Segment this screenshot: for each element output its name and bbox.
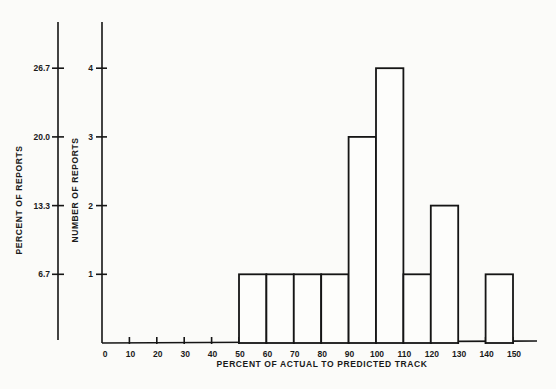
- histogram-bar: [321, 274, 348, 343]
- number-axis-title: NUMBER OF REPORTS: [70, 137, 80, 242]
- x-tick-label: 80: [317, 349, 327, 359]
- percent-tick-label: 26.7: [33, 63, 50, 73]
- x-tick-label: 0: [103, 349, 108, 359]
- x-axis-title: PERCENT OF ACTUAL TO PREDICTED TRACK: [217, 359, 428, 369]
- x-tick-label: 140: [480, 349, 494, 359]
- x-tick-label: 10: [126, 349, 136, 359]
- number-axis: 1234: [88, 22, 107, 343]
- x-tick-label: 120: [425, 349, 439, 359]
- histogram-bar: [486, 274, 513, 343]
- y-tick-label: 2: [88, 201, 93, 211]
- x-tick-label: 110: [398, 349, 412, 359]
- x-tick-label: 100: [370, 349, 384, 359]
- x-tick-label: 30: [180, 349, 190, 359]
- percent-axis: 6.713.320.026.7: [33, 22, 64, 340]
- histogram-bar: [266, 274, 293, 343]
- percent-tick-label: 6.7: [38, 269, 50, 279]
- histogram-bar: [431, 206, 458, 343]
- x-tick-label: 50: [235, 349, 245, 359]
- histogram-bar: [403, 274, 430, 343]
- y-tick-label: 1: [88, 269, 93, 279]
- histogram-chart: 6.713.320.026.7 1234 0102030405060708090…: [0, 0, 556, 389]
- x-tick-label: 150: [507, 349, 521, 359]
- x-tick-label: 40: [208, 349, 218, 359]
- histogram-bar: [294, 274, 321, 343]
- percent-axis-title: PERCENT OF REPORTS: [14, 145, 24, 254]
- percent-tick-label: 13.3: [33, 201, 50, 211]
- x-tick-label: 20: [153, 349, 163, 359]
- y-tick-label: 4: [88, 63, 93, 73]
- x-tick-label: 70: [290, 349, 300, 359]
- y-tick-label: 3: [88, 132, 93, 142]
- histogram-bar: [239, 274, 266, 343]
- x-tick-label: 130: [452, 349, 466, 359]
- histogram-bar: [376, 68, 403, 343]
- histogram-bar: [349, 137, 376, 343]
- percent-tick-label: 20.0: [33, 132, 50, 142]
- bars: [239, 68, 513, 343]
- x-tick-label: 90: [345, 349, 355, 359]
- x-tick-label: 60: [263, 349, 273, 359]
